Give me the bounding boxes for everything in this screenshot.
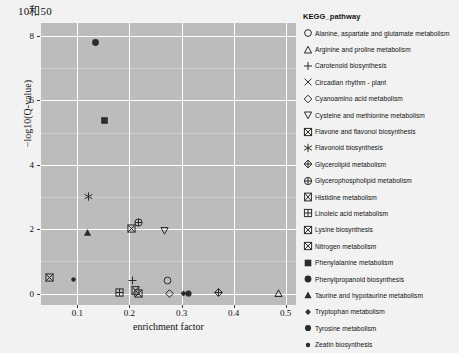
- square-x-3-icon: [300, 240, 315, 253]
- data-point: [90, 38, 99, 47]
- x-tick-mark: [286, 305, 287, 308]
- y-tick-mark: [37, 294, 40, 295]
- square-filled-icon: [300, 256, 315, 269]
- gridline-horizontal: [41, 165, 296, 166]
- data-point: [83, 228, 92, 237]
- gridline-horizontal-minor: [41, 197, 296, 198]
- y-axis-label: −log10(Q-value): [22, 34, 33, 194]
- gridline-horizontal-minor: [41, 261, 296, 262]
- y-tick-label: 2: [6, 224, 34, 234]
- legend-item-label: Taurine and hypotaurine metabolism: [315, 292, 423, 299]
- legend-item-list: Alanine, aspartate and glutamate metabol…: [300, 25, 458, 353]
- circle-plus-icon: [300, 174, 315, 187]
- x-tick-label: 0.3: [176, 308, 187, 318]
- data-point: [68, 274, 77, 283]
- data-point: [134, 289, 143, 298]
- legend-item-label: Linoleic acid metabolism: [315, 210, 388, 217]
- legend-item[interactable]: Phenylalanine metabolism: [300, 254, 458, 270]
- plus-icon: [300, 59, 315, 72]
- legend-item[interactable]: Alanine, aspartate and glutamate metabol…: [300, 25, 458, 41]
- gridline-vertical: [182, 23, 183, 305]
- legend-item[interactable]: Flavone and flavonol biosynthesis: [300, 123, 458, 139]
- legend-item[interactable]: Tryptophan metabolism: [300, 304, 458, 320]
- legend-item[interactable]: Nitrogen metabolism: [300, 238, 458, 254]
- legend-item-label: Flavone and flavonol biosynthesis: [315, 128, 416, 135]
- legend-item-label: Circadian rhythm - plant: [315, 79, 386, 86]
- gridline-vertical: [77, 23, 78, 305]
- square-x-icon: [300, 125, 315, 138]
- legend-item-label: Tyrosine metabolism: [315, 325, 376, 332]
- x-tick-mark: [129, 305, 130, 308]
- legend-item-label: Cysteine and methionine metabolism: [315, 112, 425, 119]
- legend-item[interactable]: Glycerophospholipid metabolism: [300, 173, 458, 189]
- legend-item[interactable]: Lysine biosynthesis: [300, 222, 458, 238]
- data-point: [214, 287, 223, 296]
- data-point: [273, 289, 282, 298]
- legend-item[interactable]: Flavonoid biosynthesis: [300, 140, 458, 156]
- legend-item-label: Histidine metabolism: [315, 194, 377, 201]
- square-bowtie-icon: [300, 191, 315, 204]
- legend-item-label: Tryptophan metabolism: [315, 308, 385, 315]
- square-x-2-icon: [300, 223, 315, 236]
- legend-item[interactable]: Cyanoamino acid metabolism: [300, 91, 458, 107]
- triangle-up-filled-icon: [300, 289, 315, 302]
- square-plus-icon: [300, 207, 315, 220]
- legend-item[interactable]: Taurine and hypotaurine metabolism: [300, 287, 458, 303]
- legend-item-label: Flavonoid biosynthesis: [315, 144, 383, 151]
- diamond-filled-small-icon: [300, 305, 315, 318]
- gridline-horizontal-minor: [41, 133, 296, 134]
- legend-item[interactable]: Zeatin biosynthesis: [300, 336, 458, 352]
- circle-filled-small-icon: [300, 338, 315, 351]
- legend-item-label: Carotenoid biosynthesis: [315, 62, 387, 69]
- legend-item[interactable]: Carotenoid biosynthesis: [300, 58, 458, 74]
- legend-item[interactable]: Histidine metabolism: [300, 189, 458, 205]
- triangle-down-open-icon: [300, 109, 315, 122]
- legend-item-label: Zeatin biosynthesis: [315, 341, 372, 348]
- legend-item-label: Glycerolipid metabolism: [315, 161, 386, 168]
- y-tick-label: 0: [6, 289, 34, 299]
- gridline-horizontal: [41, 100, 296, 101]
- legend-item[interactable]: Cysteine and methionine metabolism: [300, 107, 458, 123]
- gridline-horizontal: [41, 36, 296, 37]
- gridline-vertical: [286, 23, 287, 305]
- legend-item[interactable]: Arginine and proline metabolism: [300, 41, 458, 57]
- legend-item-label: Phenylpropanoid biosynthesis: [315, 276, 404, 283]
- legend-item-label: Phenylalanine metabolism: [315, 259, 393, 266]
- x-tick-mark: [182, 305, 183, 308]
- circle-open-icon: [300, 27, 315, 40]
- data-point: [115, 288, 124, 297]
- asterisk-icon: [300, 141, 315, 154]
- circle-filled-med-icon: [300, 322, 315, 335]
- data-point: [126, 224, 135, 233]
- data-point: [162, 276, 171, 285]
- x-tick-label: 0.2: [124, 308, 135, 318]
- y-tick-mark: [37, 36, 40, 37]
- gridline-vertical: [234, 23, 235, 305]
- data-point: [44, 272, 53, 281]
- gridline-vertical: [129, 23, 130, 305]
- data-point: [100, 116, 109, 125]
- cross-x-icon: [300, 76, 315, 89]
- legend-item-label: Nitrogen metabolism: [315, 243, 376, 250]
- legend: KEGG_pathway Alanine, aspartate and glut…: [300, 12, 458, 353]
- data-point: [83, 192, 92, 201]
- x-tick-label: 0.5: [280, 308, 291, 318]
- x-tick-mark: [77, 305, 78, 308]
- legend-item[interactable]: Linoleic acid metabolism: [300, 205, 458, 221]
- y-tick-mark: [37, 165, 40, 166]
- legend-item-label: Cyanoamino acid metabolism: [315, 95, 403, 102]
- legend-item[interactable]: Tyrosine metabolism: [300, 320, 458, 336]
- data-point: [184, 288, 193, 297]
- legend-item-label: Glycerophospholipid metabolism: [315, 177, 412, 184]
- figure-title: 10和50: [18, 2, 52, 18]
- x-tick-mark: [234, 305, 235, 308]
- circle-filled-icon: [300, 273, 315, 286]
- legend-item[interactable]: Phenylpropanoid biosynthesis: [300, 271, 458, 287]
- legend-item[interactable]: Circadian rhythm - plant: [300, 74, 458, 90]
- legend-item[interactable]: Glycerolipid metabolism: [300, 156, 458, 172]
- diamond-plus-icon: [300, 158, 315, 171]
- gridline-horizontal-minor: [41, 68, 296, 69]
- y-tick-mark: [37, 229, 40, 230]
- triangle-up-open-icon: [300, 43, 315, 56]
